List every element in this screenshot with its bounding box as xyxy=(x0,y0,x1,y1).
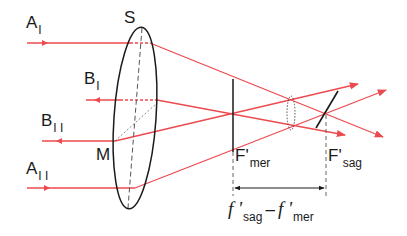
label-s: S xyxy=(124,9,135,26)
sagittal-focal-line xyxy=(316,91,338,196)
label-m: M xyxy=(96,146,110,163)
label-b1: BI xyxy=(84,70,100,87)
label-a1: AI xyxy=(26,14,42,31)
label-f-sag: F'sag xyxy=(328,147,362,164)
ray-a1-refracted xyxy=(150,43,383,137)
label-focal-difference: f 'sag–f 'mer xyxy=(228,199,314,218)
label-a2: AI I xyxy=(26,160,48,177)
astigmatism-diagram: AI BI BI I AI I S M F'mer F'sag f 'sag–f… xyxy=(0,0,407,236)
label-f-mer: F'mer xyxy=(235,147,270,164)
ray-a2-refracted xyxy=(135,90,386,188)
lens xyxy=(108,26,163,210)
label-b2: BI I xyxy=(41,112,63,129)
